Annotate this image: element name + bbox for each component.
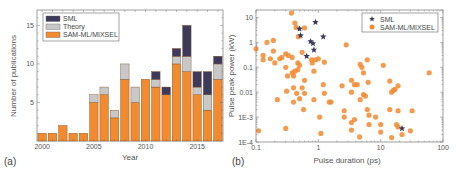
bar-segment — [110, 118, 118, 141]
bar-segment — [162, 87, 170, 95]
sam-data-point — [292, 20, 297, 25]
x-tick-label: 2015 — [189, 143, 205, 150]
x-tick-label: 100 — [437, 144, 449, 151]
sam-data-point — [389, 135, 394, 140]
y-tick-label: 0.01 — [239, 89, 253, 96]
bar-segment — [131, 87, 139, 102]
figure-canvas: 51015 2000200520102015 Year Number of pu… — [0, 0, 458, 173]
bar-segment — [193, 72, 201, 87]
bar-segment — [214, 56, 222, 64]
sam-data-point — [366, 80, 371, 85]
sam-data-point — [268, 56, 273, 61]
bar-chart-publications: 51015 2000200520102015 Year Number of pu… — [4, 10, 223, 167]
sam-data-point — [344, 42, 349, 47]
sam-data-point — [365, 107, 370, 112]
bar-segment — [203, 95, 211, 110]
bar-segment — [152, 72, 160, 80]
sam-data-point — [302, 91, 307, 96]
x-tick-label: 2005 — [86, 143, 102, 150]
sam-data-point — [352, 117, 357, 122]
sam-data-point — [291, 100, 296, 105]
bar-segment — [203, 72, 211, 95]
sam-data-point — [399, 132, 404, 137]
sam-data-point — [271, 48, 276, 53]
sam-data-point — [294, 91, 299, 96]
bar-segment — [183, 25, 191, 56]
bar-segment — [110, 110, 118, 118]
x-tick-label: 0.1 — [251, 144, 261, 151]
sam-data-point — [410, 108, 415, 113]
sam-data-point — [297, 63, 302, 68]
sam-data-point — [294, 25, 299, 30]
panel-label-b: (b) — [232, 156, 244, 167]
y-tick-label: 10 — [245, 14, 253, 21]
sam-data-point — [311, 97, 316, 102]
sam-data-point — [261, 57, 266, 62]
x-tick-label: 2010 — [138, 143, 154, 150]
sam-data-point — [317, 114, 322, 119]
sam-data-point — [290, 55, 295, 60]
sam-data-point — [322, 60, 327, 65]
bar-segment — [193, 87, 201, 95]
sam-data-point — [271, 38, 276, 43]
sam-data-point — [302, 78, 307, 83]
sam-data-point — [289, 11, 294, 16]
sam-data-point — [357, 134, 362, 139]
sml-data-point — [320, 33, 326, 39]
bar-segment — [172, 49, 180, 57]
sam-data-point — [395, 108, 400, 113]
sam-data-point — [283, 126, 288, 131]
bar-segment — [172, 64, 180, 141]
sam-data-point — [361, 70, 366, 75]
bar-segment — [152, 87, 160, 141]
bar-segment — [100, 95, 108, 141]
sam-data-point — [291, 73, 296, 78]
scatter-chart-pulse: 1E-41E-30.010.1110 0.1110100 Pulse durat… — [227, 10, 449, 167]
sam-data-point — [300, 50, 305, 55]
sml-data-point — [312, 19, 318, 25]
sam-data-point — [366, 113, 371, 118]
sam-data-point — [349, 128, 354, 133]
bar-segment — [152, 79, 160, 87]
sam-data-point — [342, 108, 347, 113]
bar-segment — [214, 64, 222, 79]
sam-data-point — [297, 96, 302, 101]
bar-segment — [59, 126, 67, 141]
y-tick-label: 5 — [30, 99, 34, 106]
bar-segment — [121, 64, 129, 79]
bar-segment — [183, 56, 191, 71]
legend-entry: SML — [63, 15, 78, 22]
x-tick-label: 2000 — [34, 143, 50, 150]
bar-segment — [203, 110, 211, 141]
sam-data-point — [272, 60, 277, 65]
stacked-bars — [38, 25, 222, 141]
bar-segment — [214, 79, 222, 141]
sam-data-point — [283, 65, 288, 70]
x-tick-label: 10 — [377, 144, 385, 151]
sam-data-point — [349, 90, 354, 95]
bar-segment — [100, 87, 108, 95]
y-tick-label: 15 — [26, 22, 34, 29]
sam-data-point — [358, 97, 363, 102]
sam-data-point — [322, 91, 327, 96]
sam-data-point — [264, 40, 269, 45]
y-axis-label-b: Pulse peak power (kW) — [227, 34, 236, 117]
sam-data-point — [302, 25, 307, 30]
sam-data-point — [387, 107, 392, 112]
sam-data-point — [366, 122, 371, 127]
sam-data-point — [301, 107, 306, 112]
bar-segment — [172, 56, 180, 64]
sam-data-point — [408, 128, 413, 133]
x-tick-label: 1 — [316, 144, 320, 151]
sam-data-point — [373, 114, 378, 119]
sam-data-point — [378, 129, 383, 134]
circle-marker-icon — [370, 25, 375, 30]
sam-data-point — [284, 89, 289, 94]
sam-data-point — [342, 114, 347, 119]
sam-data-point — [256, 128, 261, 133]
y-tick-label: 0.1 — [243, 64, 253, 71]
legend-entry: Theory — [63, 23, 85, 31]
x-axis-label-b: Pulse duration (ps) — [313, 156, 380, 165]
sam-data-point — [328, 100, 333, 105]
sam-data-point — [387, 78, 392, 83]
